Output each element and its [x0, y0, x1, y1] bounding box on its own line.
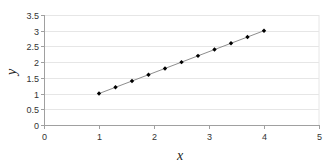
y-axis-ticks: 00.511.522.533.5 — [26, 11, 44, 131]
data-point-marker — [212, 47, 216, 51]
data-point-marker — [130, 79, 134, 83]
y-tick-label: 3.5 — [26, 11, 39, 21]
y-tick-label: 0.5 — [26, 105, 39, 115]
data-point-marker — [229, 41, 233, 45]
x-tick-label: 0 — [42, 132, 47, 142]
x-tick-label: 2 — [152, 132, 157, 142]
data-point-marker — [163, 66, 167, 70]
x-tick-label: 3 — [207, 132, 212, 142]
x-tick-label: 5 — [317, 132, 322, 142]
y-tick-label: 0 — [34, 121, 39, 131]
y-tick-label: 2.5 — [26, 42, 39, 52]
y-tick-label: 3 — [34, 27, 39, 37]
x-axis-ticks: 012345 — [42, 125, 322, 142]
x-tick-label: 4 — [262, 132, 267, 142]
y-tick-label: 1 — [34, 90, 39, 100]
data-point-marker — [245, 35, 249, 39]
x-axis-title: x — [176, 148, 184, 163]
x-tick-label: 1 — [97, 132, 102, 142]
y-axis-title: y — [4, 68, 19, 77]
data-point-marker — [179, 60, 183, 64]
y-tick-label: 2 — [34, 58, 39, 68]
data-point-marker — [97, 91, 101, 95]
data-point-marker — [146, 73, 150, 77]
scatter-chart: 00.511.522.533.5 012345 y x — [0, 0, 332, 167]
data-point-marker — [262, 29, 266, 33]
data-point-marker — [113, 85, 117, 89]
gridlines — [44, 15, 319, 125]
data-point-marker — [196, 54, 200, 58]
y-tick-label: 1.5 — [26, 74, 39, 84]
